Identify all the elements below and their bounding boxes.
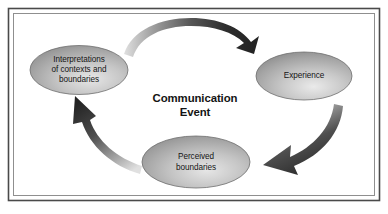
center-label-line-1: Communication xyxy=(153,92,238,104)
diagram-canvas: Interpretations of contexts and boundari… xyxy=(0,0,388,214)
communication-event-diagram: Interpretations of contexts and boundari… xyxy=(0,0,388,214)
node-perceived-boundaries-shape xyxy=(142,136,250,188)
node-interpretations-line-2: of contexts and xyxy=(52,65,107,74)
node-experience[interactable]: Experience xyxy=(256,52,352,100)
node-experience-line-1: Experience xyxy=(284,71,325,80)
node-interpretations[interactable]: Interpretations of contexts and boundari… xyxy=(30,46,128,95)
node-perceived-boundaries-line-1: Perceived xyxy=(178,152,214,161)
center-label-line-2: Event xyxy=(180,106,211,118)
node-interpretations-line-3: boundaries xyxy=(59,75,99,84)
node-interpretations-line-1: Interpretations xyxy=(53,55,105,64)
node-perceived-boundaries-line-2: boundaries xyxy=(176,163,216,172)
node-perceived-boundaries[interactable]: Perceived boundaries xyxy=(142,136,250,188)
